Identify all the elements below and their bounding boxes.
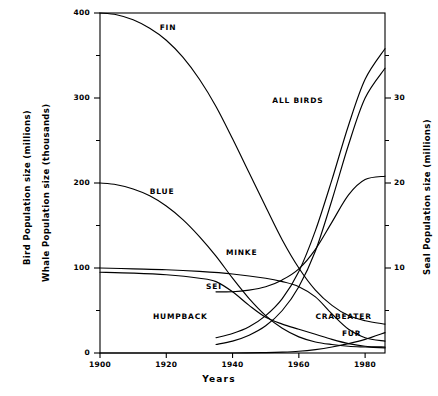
chart-figure: Bird Population size (millions) Whale Po… [0,0,438,396]
x-tick-label: 1940 [219,360,247,369]
series-line-all-birds [216,49,385,338]
y-axis-left-title-whales: Whale Population size (thousands) [41,104,51,282]
x-tick-label: 1960 [285,360,313,369]
y-tick-label-left: 200 [60,178,90,187]
y-tick-label-left: 400 [60,8,90,17]
y-tick-label-right: 10 [394,263,405,272]
x-tick-label: 1920 [152,360,180,369]
x-tick-label: 1980 [351,360,379,369]
series-line-fin [100,13,385,324]
series-label-sei: SEI [206,282,222,291]
data-series [100,13,385,353]
x-axis-title: Years [0,374,438,384]
axis-ticks [94,13,391,358]
y-axis-right-title-seals: Seal Population size (millions) [422,119,432,275]
series-label-fin: FIN [160,23,177,32]
y-axis-left-title-birds: Bird Population size (millions) [22,110,32,265]
y-tick-label-left: 100 [60,263,90,272]
series-label-humpback: HUMPBACK [153,312,208,321]
y-tick-label-left: 300 [60,93,90,102]
axes-frame [100,13,385,353]
series-label-crabeater: CRABEATER [315,312,371,321]
y-tick-label-left: 0 [60,348,90,357]
y-tick-label-right: 30 [394,93,405,102]
series-label-all-birds: ALL BIRDS [272,96,323,105]
y-tick-label-right: 20 [394,178,405,187]
series-line-crabeater [216,68,385,344]
plot-canvas [0,0,438,396]
series-label-blue: BLUE [150,187,175,196]
x-tick-label: 1900 [86,360,114,369]
series-label-fur: FUR [342,329,361,338]
series-label-minke: MINKE [226,248,257,257]
